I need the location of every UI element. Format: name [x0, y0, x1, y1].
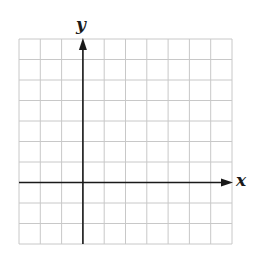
y-axis-label: y: [76, 16, 86, 33]
x-axis-arrowhead-icon: [221, 179, 233, 187]
y-axis-arrowhead-icon: [79, 38, 87, 50]
grid-lines: [19, 39, 232, 244]
x-axis-label: x: [236, 172, 246, 189]
coordinate-plane: [0, 0, 257, 262]
